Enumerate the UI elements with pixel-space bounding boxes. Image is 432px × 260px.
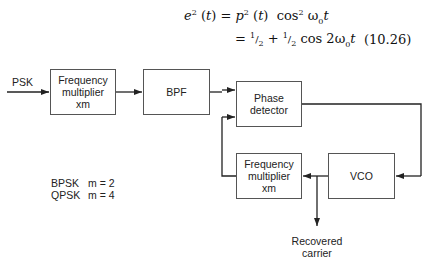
frequency-multiplier-block-2: Frequency multiplier xm — [236, 153, 302, 199]
vco-block: VCO — [328, 153, 395, 199]
phase-detector-block: Phase detector — [236, 81, 302, 127]
bpf-block: BPF — [143, 69, 210, 115]
output-label-recovered-carrier: Recovered carrier — [286, 235, 348, 259]
input-label-psk: PSK — [12, 76, 33, 88]
legend-bpsk-m: m = 2 — [88, 177, 115, 189]
frequency-multiplier-block-1: Frequency multiplier xm — [50, 69, 116, 115]
legend-bpsk-mod: BPSK — [51, 177, 79, 189]
legend-qpsk-mod: QPSK — [51, 189, 80, 201]
connectors — [0, 0, 432, 260]
legend-qpsk-m: m = 4 — [88, 189, 115, 201]
